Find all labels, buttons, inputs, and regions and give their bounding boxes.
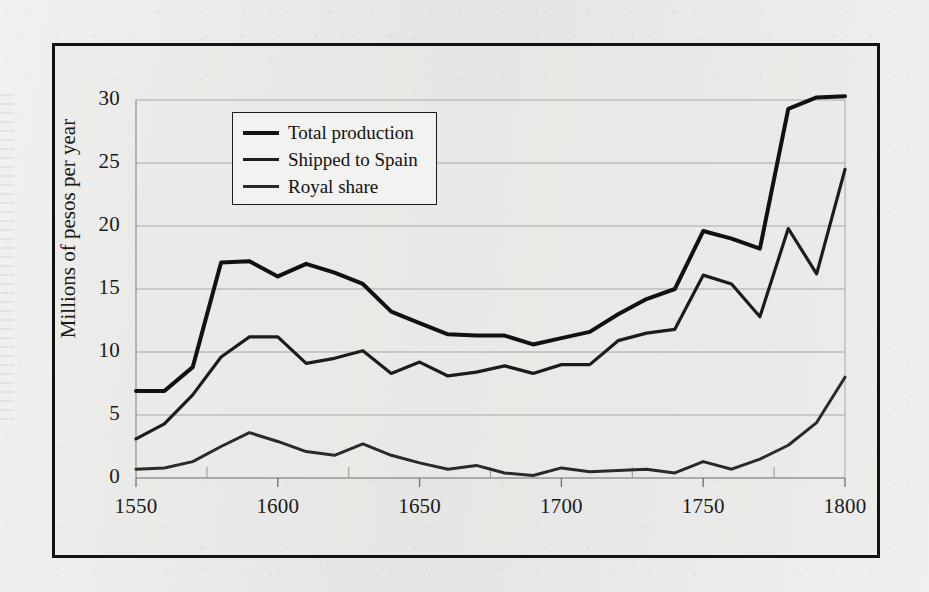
x-tick-label-1750: 1750 xyxy=(658,494,748,519)
legend-label: Royal share xyxy=(288,177,378,196)
x-tick-label-1700: 1700 xyxy=(516,494,606,519)
legend-line-swatch xyxy=(243,131,279,135)
legend-entry-royal-share: Royal share xyxy=(243,173,436,200)
y-tick-label-30: 30 xyxy=(58,86,120,111)
x-tick-label-1600: 1600 xyxy=(233,494,323,519)
y-tick-label-15: 15 xyxy=(58,275,120,300)
x-tick-label-1800: 1800 xyxy=(800,494,890,519)
chart-legend: Total productionShipped to SpainRoyal sh… xyxy=(232,112,437,205)
y-tick-label-25: 25 xyxy=(58,149,120,174)
y-tick-label-20: 20 xyxy=(58,212,120,237)
y-tick-label-5: 5 xyxy=(58,401,120,426)
legend-entry-shipped-to-spain: Shipped to Spain xyxy=(243,146,436,173)
legend-line-swatch xyxy=(243,158,279,161)
legend-label: Total production xyxy=(288,123,414,142)
legend-label: Shipped to Spain xyxy=(288,150,418,169)
x-tick-label-1550: 1550 xyxy=(91,494,181,519)
y-tick-label-0: 0 xyxy=(58,464,120,489)
legend-line-swatch xyxy=(243,185,279,188)
y-tick-label-10: 10 xyxy=(58,338,120,363)
legend-entry-total-production: Total production xyxy=(243,119,436,146)
x-tick-label-1650: 1650 xyxy=(375,494,465,519)
